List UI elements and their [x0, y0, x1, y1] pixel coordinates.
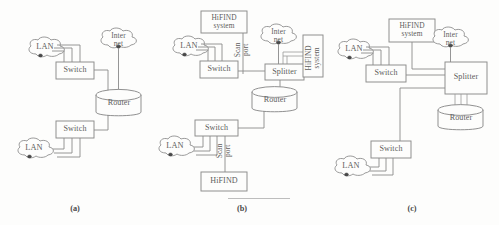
panel-b-caption: (b)	[222, 204, 262, 213]
panel-b-switch-bottom-label: Switch	[195, 124, 238, 132]
panel-c-lan-top-label: LAN	[341, 45, 367, 54]
panel-b-scan-port-top-label: Scan port	[234, 37, 250, 63]
panel-c-lan-bottom-label: LAN	[338, 162, 364, 171]
scan-line-2: port	[241, 44, 250, 56]
panel-b-hifind-right-label: HiFIND system	[305, 38, 321, 78]
panel-c-internet-label: Inter net	[437, 31, 464, 47]
panel-c-switch-bottom-label: Switch	[371, 145, 411, 153]
panel-a-link-switch-bottom-lan	[52, 138, 80, 157]
panel-c-router-label: Router	[441, 114, 481, 122]
panel-b-splitter-label: Splitter	[265, 68, 304, 76]
panel-c-switch-top-label: Switch	[366, 69, 406, 77]
panel-c-hifind-top-label: HiFIND system	[389, 22, 435, 38]
internet-line-2: net	[274, 35, 283, 44]
panel-a-lan-top-label: LAN	[32, 43, 58, 52]
panel-b-hifind-bottom-label: HiFIND	[201, 177, 247, 185]
panel-b-switch-top-label: Switch	[200, 65, 238, 73]
panel-b-scan-port-bottom-label: Scan port	[216, 138, 232, 164]
hifind-line-2: system	[401, 29, 422, 38]
internet-line-2: net	[446, 38, 455, 47]
panel-b-link-switch-bottom-lan	[191, 136, 217, 155]
panel-c-caption: (c)	[392, 204, 432, 213]
panel-c-link-switch-bottom-lan	[367, 158, 393, 175]
panel-a-router-label: Router	[99, 99, 139, 107]
scan-line-2: port	[223, 145, 232, 157]
panel-a-switch-top-label: Switch	[56, 66, 94, 74]
internet-line-2: net	[114, 39, 123, 48]
panel-b-hifind-top-label: HiFIND system	[201, 14, 247, 30]
hifind-line-2: system	[213, 21, 234, 30]
panel-a-internet-label: Inter net	[105, 32, 132, 48]
hifind-line-2: system	[312, 47, 321, 68]
panel-a-caption: (a)	[55, 204, 95, 213]
panel-b-router-label: Router	[255, 96, 295, 104]
panel-c-splitter-label: Splitter	[445, 73, 487, 81]
panel-a-lan-bottom-label: LAN	[21, 144, 47, 153]
panel-b-lan-top-label: LAN	[176, 42, 202, 51]
panel-b-link-splitter-hifind-right	[283, 52, 303, 64]
panel-b-internet-label: Inter net	[265, 28, 292, 44]
panel-a-link-router-switch-bottom	[94, 115, 108, 130]
figure-network-deployments: LAN Switch Inter net Router Switch LAN (…	[0, 0, 499, 225]
panel-b-lan-bottom-label: LAN	[162, 142, 188, 151]
panel-a-switch-bottom-label: Switch	[56, 125, 94, 133]
panel-b-link-router-switch-bottom	[238, 111, 264, 128]
